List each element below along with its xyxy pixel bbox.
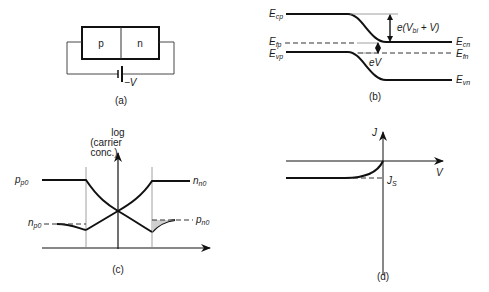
label-evp: Evp: [269, 48, 283, 61]
label-ecp: Ecp: [269, 8, 283, 21]
y-axis-label-line3: conc.): [90, 147, 117, 158]
panel-b-band-diagram: e(Vbi + V) eV Ecp Efp Evp Ecn Efn Evn (b…: [269, 8, 470, 102]
label-efn: Efn: [456, 48, 469, 60]
pn-junction-figure: p n −V (a) e(Vbi + V) eV Ecp Efp Evp: [0, 0, 489, 292]
iv-curve: [286, 161, 383, 178]
caption-a: (a): [115, 95, 127, 106]
label-pn0: pn0: [195, 214, 209, 226]
barrier-label: e(Vbi + V): [397, 22, 439, 34]
pn-depletion-shade: [152, 220, 175, 232]
bias-voltage-label: −V: [124, 77, 138, 88]
panel-d-iv-characteristic: J V JS (d): [286, 127, 444, 282]
caption-c: (c): [112, 264, 124, 275]
np-minority-tail: [57, 224, 86, 230]
label-evn: Evn: [456, 74, 470, 86]
j-axis-label: J: [371, 127, 378, 138]
ev-label: eV: [369, 57, 383, 68]
n-region-label: n: [137, 38, 143, 49]
panel-c-carrier-concentration: log (carrier conc.) pp0 nn0 np0 pn0 (c): [14, 127, 210, 275]
label-nn0: nn0: [193, 175, 206, 187]
caption-b: (b): [369, 91, 381, 102]
v-axis-label: V: [436, 167, 444, 178]
caption-d: (d): [377, 271, 389, 282]
label-pp0: pp0: [14, 174, 28, 187]
saturation-current-label: JS: [386, 175, 397, 187]
label-ecn: Ecn: [456, 36, 470, 48]
panel-a-diode-circuit: p n −V (a): [67, 27, 174, 106]
p-region-label: p: [98, 38, 104, 49]
label-np0: np0: [28, 217, 41, 230]
